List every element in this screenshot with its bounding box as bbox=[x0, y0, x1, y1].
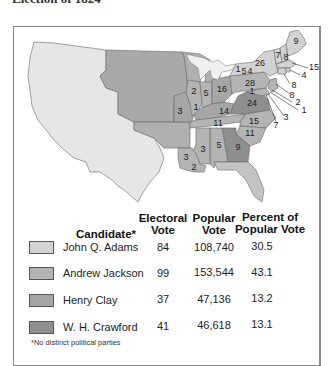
label-massachusetts: 15 bbox=[309, 62, 319, 72]
label-north-carolina: 15 bbox=[249, 116, 259, 126]
label-new-york-crawford: 5 bbox=[241, 66, 246, 76]
territory-florida bbox=[214, 162, 264, 202]
label-new-jersey: 8 bbox=[289, 90, 294, 100]
label-vermont: 7 bbox=[275, 50, 280, 60]
us-map-svg: 9 8 7 15 4 8 26 4 1 5 8 28 2 1 7 3 1 24 … bbox=[14, 30, 320, 205]
election-map: 9 8 7 15 4 8 26 4 1 5 8 28 2 1 7 3 1 24 … bbox=[14, 30, 320, 205]
header-electoral-line1: Electoral bbox=[133, 212, 193, 224]
percent-popular-vote: 13.1 bbox=[237, 318, 287, 330]
page-title: Election of 1824 bbox=[12, 0, 101, 7]
popular-vote: 108,740 bbox=[188, 241, 240, 253]
label-delaware-adams: 1 bbox=[301, 105, 306, 115]
table-row: John Q. Adams 84 108,740 30.5 bbox=[0, 240, 335, 260]
label-illinois-adams: 1 bbox=[193, 102, 198, 112]
header-percent-line1: Percent of bbox=[232, 211, 308, 223]
label-georgia: 9 bbox=[235, 142, 240, 152]
state-connecticut bbox=[278, 68, 286, 74]
header-electoral-vote: Electoral Vote bbox=[133, 212, 193, 236]
popular-vote: 47,136 bbox=[188, 293, 240, 305]
electoral-vote: 37 bbox=[148, 293, 178, 305]
legend-swatch-crawford bbox=[29, 321, 54, 334]
label-indiana: 5 bbox=[203, 88, 208, 98]
label-missouri: 3 bbox=[177, 106, 182, 116]
table-row: Andrew Jackson 99 153,544 43.1 bbox=[0, 266, 335, 286]
label-ohio: 16 bbox=[217, 84, 227, 94]
label-louisiana-adams: 2 bbox=[191, 162, 196, 172]
label-alabama: 5 bbox=[216, 140, 221, 150]
popular-vote: 153,544 bbox=[188, 266, 240, 278]
label-new-york-jackson: 1 bbox=[235, 64, 240, 74]
percent-popular-vote: 30.5 bbox=[237, 240, 287, 252]
electoral-vote: 84 bbox=[148, 241, 178, 253]
electoral-vote: 41 bbox=[148, 320, 178, 332]
label-rhode-island: 4 bbox=[301, 70, 306, 80]
candidate-name: John Q. Adams bbox=[63, 241, 138, 253]
label-new-york: 26 bbox=[255, 58, 265, 68]
label-mississippi: 3 bbox=[200, 144, 205, 154]
label-maryland-adams: 3 bbox=[283, 112, 288, 122]
legend-swatch-clay bbox=[29, 294, 54, 307]
candidate-name: W. H. Crawford bbox=[63, 321, 138, 333]
header-percent-popular-vote: Percent of Popular Vote bbox=[232, 211, 308, 235]
popular-vote: 46,618 bbox=[188, 319, 240, 331]
label-delaware-crawford: 2 bbox=[295, 97, 300, 107]
state-rhode-island bbox=[286, 68, 290, 72]
header-electoral-line2: Vote bbox=[133, 224, 193, 236]
table-row: W. H. Crawford 41 46,618 13.1 bbox=[0, 320, 335, 340]
electoral-vote: 99 bbox=[148, 267, 178, 279]
label-louisiana-jackson: 3 bbox=[183, 152, 188, 162]
percent-popular-vote: 13.2 bbox=[237, 292, 287, 304]
label-illinois-jackson: 2 bbox=[191, 86, 196, 96]
label-maine: 9 bbox=[293, 36, 298, 46]
label-connecticut: 8 bbox=[291, 80, 296, 90]
label-new-york-clay: 4 bbox=[247, 66, 252, 76]
percent-popular-vote: 43.1 bbox=[237, 266, 287, 278]
table-row: Henry Clay 37 47,136 13.2 bbox=[0, 293, 335, 313]
footnote: *No distinct political parties bbox=[31, 338, 121, 347]
label-maryland-crawford: 1 bbox=[249, 86, 254, 96]
header-candidate-text: Candidate* bbox=[76, 228, 136, 240]
label-kentucky: 14 bbox=[219, 106, 229, 116]
header-percent-line2: Popular Vote bbox=[232, 223, 308, 235]
label-new-hampshire: 8 bbox=[283, 52, 288, 62]
label-virginia: 24 bbox=[247, 98, 257, 108]
label-tennessee: 11 bbox=[213, 118, 222, 128]
candidate-name: Andrew Jackson bbox=[63, 267, 144, 279]
label-south-carolina: 11 bbox=[245, 128, 254, 138]
legend-swatch-jackson bbox=[29, 267, 54, 280]
legend-swatch-adams bbox=[29, 241, 54, 254]
candidate-name: Henry Clay bbox=[63, 294, 117, 306]
label-maryland-jackson: 7 bbox=[273, 120, 278, 130]
